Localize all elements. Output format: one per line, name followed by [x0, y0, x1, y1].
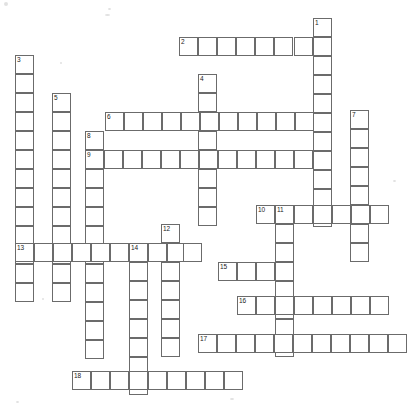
crossword-cell[interactable] [205, 371, 224, 390]
crossword-cell[interactable] [52, 112, 71, 131]
crossword-cell[interactable] [52, 188, 71, 207]
crossword-cell-numbered[interactable]: 8 [85, 131, 104, 150]
crossword-cell[interactable] [15, 74, 34, 93]
crossword-cell-numbered[interactable]: 9 [85, 150, 104, 169]
crossword-cell[interactable] [275, 296, 294, 315]
crossword-cell[interactable] [224, 371, 243, 390]
crossword-cell[interactable] [186, 371, 205, 390]
crossword-cell[interactable] [237, 262, 256, 281]
crossword-cell[interactable] [15, 150, 34, 169]
crossword-cell-numbered[interactable]: 2 [179, 37, 198, 56]
crossword-cell[interactable] [161, 150, 180, 169]
crossword-cell[interactable] [181, 112, 200, 131]
crossword-cell[interactable] [85, 283, 104, 302]
crossword-cell-numbered[interactable]: 16 [237, 296, 256, 315]
crossword-cell[interactable] [218, 150, 237, 169]
crossword-cell[interactable] [275, 243, 294, 262]
crossword-cell-numbered[interactable]: 15 [218, 262, 237, 281]
crossword-cell[interactable] [167, 371, 186, 390]
crossword-cell[interactable] [332, 205, 351, 224]
crossword-cell[interactable] [294, 150, 313, 169]
crossword-cell[interactable] [350, 167, 369, 186]
crossword-cell[interactable] [313, 205, 332, 224]
crossword-cell[interactable] [276, 112, 295, 131]
crossword-cell[interactable] [15, 169, 34, 188]
crossword-cell[interactable] [162, 112, 181, 131]
crossword-cell[interactable] [350, 186, 369, 205]
crossword-cell[interactable] [143, 112, 162, 131]
crossword-cell[interactable] [15, 112, 34, 131]
crossword-cell[interactable] [198, 169, 217, 188]
crossword-cell[interactable] [313, 151, 332, 170]
crossword-cell[interactable] [332, 296, 351, 315]
crossword-cell[interactable] [217, 37, 236, 56]
crossword-cell[interactable] [199, 150, 218, 169]
crossword-cell[interactable] [312, 334, 331, 353]
crossword-cell-numbered[interactable]: 3 [15, 55, 34, 74]
crossword-cell[interactable] [255, 37, 274, 56]
crossword-cell[interactable] [15, 131, 34, 150]
crossword-cell[interactable] [15, 283, 34, 302]
crossword-cell[interactable] [313, 94, 332, 113]
crossword-cell[interactable] [52, 264, 71, 283]
crossword-cell[interactable] [52, 207, 71, 226]
crossword-cell[interactable] [129, 371, 148, 390]
crossword-cell-numbered[interactable]: 18 [72, 371, 91, 390]
crossword-cell[interactable] [370, 205, 389, 224]
crossword-cell[interactable] [294, 37, 313, 56]
crossword-cell-numbered[interactable]: 7 [350, 110, 369, 129]
crossword-cell[interactable] [198, 37, 217, 56]
crossword-cell-numbered[interactable]: 10 [256, 205, 275, 224]
crossword-cell[interactable] [198, 188, 217, 207]
crossword-cell[interactable] [85, 302, 104, 321]
crossword-cell[interactable] [129, 262, 148, 281]
crossword-cell[interactable] [295, 112, 314, 131]
crossword-cell-numbered[interactable]: 11 [275, 205, 294, 224]
crossword-cell[interactable] [148, 371, 167, 390]
crossword-cell[interactable] [148, 243, 167, 262]
crossword-cell-numbered[interactable]: 6 [105, 112, 124, 131]
crossword-cell[interactable] [91, 243, 110, 262]
crossword-cell[interactable] [351, 296, 370, 315]
crossword-cell[interactable] [85, 321, 104, 340]
crossword-cell[interactable] [161, 319, 180, 338]
crossword-cell[interactable] [183, 243, 202, 262]
crossword-cell[interactable] [256, 262, 275, 281]
crossword-cell[interactable] [161, 300, 180, 319]
crossword-cell[interactable] [15, 93, 34, 112]
crossword-cell[interactable] [313, 75, 332, 94]
crossword-cell[interactable] [72, 243, 91, 262]
crossword-cell[interactable] [275, 150, 294, 169]
crossword-cell[interactable] [274, 334, 293, 353]
crossword-cell[interactable] [161, 281, 180, 300]
crossword-cell[interactable] [313, 113, 332, 132]
crossword-cell[interactable] [388, 334, 407, 353]
crossword-cell[interactable] [129, 319, 148, 338]
crossword-cell[interactable] [104, 150, 123, 169]
crossword-cell[interactable] [85, 264, 104, 283]
crossword-cell-numbered[interactable]: 17 [198, 334, 217, 353]
crossword-cell[interactable] [53, 243, 72, 262]
crossword-cell[interactable] [313, 56, 332, 75]
crossword-cell[interactable] [123, 150, 142, 169]
crossword-cell[interactable] [350, 243, 369, 262]
crossword-cell[interactable] [294, 205, 313, 224]
crossword-cell[interactable] [161, 262, 180, 281]
crossword-cell[interactable] [129, 300, 148, 319]
crossword-cell-numbered[interactable]: 4 [198, 74, 217, 93]
crossword-cell[interactable] [217, 334, 236, 353]
crossword-cell[interactable] [313, 170, 332, 189]
crossword-cell[interactable] [110, 371, 129, 390]
crossword-cell[interactable] [313, 296, 332, 315]
crossword-cell[interactable] [85, 207, 104, 226]
crossword-cell[interactable] [15, 188, 34, 207]
crossword-cell[interactable] [350, 148, 369, 167]
crossword-cell-numbered[interactable]: 5 [52, 93, 71, 112]
crossword-cell[interactable] [52, 150, 71, 169]
crossword-cell[interactable] [293, 334, 312, 353]
crossword-cell[interactable] [369, 334, 388, 353]
crossword-cell[interactable] [219, 112, 238, 131]
crossword-cell-numbered[interactable]: 12 [161, 224, 180, 243]
crossword-cell[interactable] [91, 371, 110, 390]
crossword-cell[interactable] [85, 340, 104, 359]
